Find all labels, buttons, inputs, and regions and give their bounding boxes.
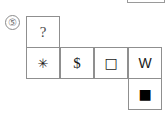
net-cell-hollow-square[interactable]: □ — [94, 47, 128, 79]
snowflake-asterisk-icon: ✳ — [38, 57, 49, 70]
question-mark-icon: ? — [40, 25, 47, 40]
puzzle-canvas: ⑤ ? ✳ $ □ W ■ — [0, 0, 168, 127]
dollar-sign-icon: $ — [73, 56, 81, 71]
net-cell-top-unknown[interactable]: ? — [26, 16, 60, 48]
net-cell-snowflake[interactable]: ✳ — [26, 47, 60, 79]
item-number-badge: ⑤ — [5, 15, 20, 30]
hollow-square-icon: □ — [104, 56, 117, 70]
filled-square-icon: ■ — [138, 87, 151, 101]
cropped-box-top-right — [127, 0, 165, 3]
net-cell-dollar[interactable]: $ — [60, 47, 94, 79]
net-cell-filled-square[interactable]: ■ — [128, 78, 162, 110]
letter-w-icon: W — [138, 56, 151, 70]
net-cell-letter-w[interactable]: W — [128, 47, 162, 79]
